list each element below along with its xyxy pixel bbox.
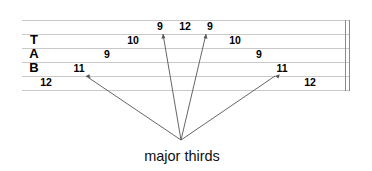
clef-letter-a: A <box>29 46 39 61</box>
figure-caption: major thirds <box>144 148 220 164</box>
clef-letter-t: T <box>30 32 38 47</box>
leader-line-left-inner <box>163 34 181 140</box>
fret-number: 9 <box>207 20 213 32</box>
fret-number: 9 <box>157 20 163 32</box>
tablature-canvas: T A B 12 11 9 10 9 12 9 10 9 11 12 <box>0 0 372 171</box>
arrowhead-right-outer <box>275 74 280 78</box>
leader-lines <box>86 34 280 140</box>
tablature-figure: T A B 12 11 9 10 9 12 9 10 9 11 12 <box>0 0 372 171</box>
fret-number: 11 <box>276 62 287 74</box>
fret-number: 12 <box>179 20 191 32</box>
fret-number: 9 <box>256 48 262 60</box>
tab-clef: T A B <box>29 32 39 75</box>
leader-line-right-outer <box>181 76 275 140</box>
leader-line-left-outer <box>86 76 181 140</box>
fret-number: 12 <box>304 76 316 88</box>
end-double-barline <box>346 20 350 91</box>
fret-numbers: 12 11 9 10 9 12 9 10 9 11 12 <box>40 20 316 88</box>
clef-letter-b: B <box>29 60 38 75</box>
fret-number: 10 <box>229 34 241 46</box>
leader-line-right-inner <box>181 34 206 140</box>
fret-number: 10 <box>127 34 139 46</box>
fret-number: 9 <box>104 48 110 60</box>
fret-number: 11 <box>73 62 84 74</box>
fret-number: 12 <box>40 76 52 88</box>
